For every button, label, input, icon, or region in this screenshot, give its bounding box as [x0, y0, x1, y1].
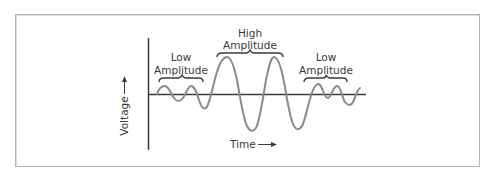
region-label-high-line2: Amplitude [223, 39, 277, 51]
brace-low-left [159, 75, 203, 82]
x-axis-label: Time [229, 138, 256, 150]
y-axis-arrow-icon [122, 76, 127, 82]
waveform-diagram: Low Amplitude High Amplitude Low Amplitu… [0, 0, 497, 178]
brace-low-right [304, 75, 347, 82]
brace-high [217, 50, 283, 57]
region-label-low-right-line1: Low [316, 51, 337, 63]
region-label-low-left-line1: Low [171, 51, 192, 63]
region-label-low-right-line2: Amplitude [299, 64, 353, 76]
region-label-high-line1: High [238, 27, 262, 39]
x-axis-arrow-icon [271, 142, 277, 147]
y-axis-label: Voltage [118, 96, 130, 135]
region-label-low-left-line2: Amplitude [154, 64, 208, 76]
